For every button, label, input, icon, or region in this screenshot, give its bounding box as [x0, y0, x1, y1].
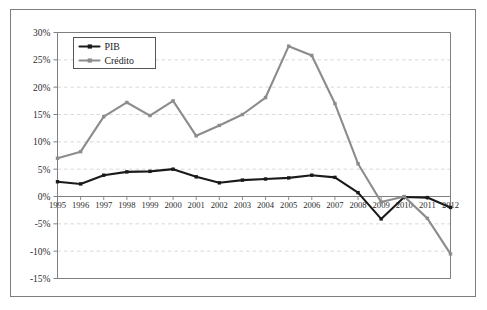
x-tick-label: 1997 — [95, 200, 113, 210]
y-tick-label: -10% — [30, 247, 51, 257]
data-point-marker — [310, 173, 313, 176]
data-point-marker — [218, 124, 221, 127]
line-chart: 30%25%20%15%10%5%0%-5%-10%-15%1995199619… — [0, 0, 487, 310]
legend-item-label: Crédito — [105, 55, 134, 66]
y-tick-label: 30% — [33, 28, 51, 38]
data-point-marker — [56, 157, 59, 160]
data-point-marker — [449, 206, 452, 209]
y-tick-label: 10% — [33, 137, 51, 147]
data-point-marker — [264, 177, 267, 180]
data-point-marker — [333, 102, 336, 105]
x-tick-label: 2011 — [419, 200, 436, 210]
x-tick-label: 1998 — [118, 200, 135, 210]
data-point-marker — [426, 196, 429, 199]
data-point-marker — [171, 167, 174, 170]
gridlines — [58, 33, 451, 279]
data-point-marker — [102, 173, 105, 176]
x-tick-label: 2007 — [326, 200, 344, 210]
data-point-marker — [79, 182, 82, 185]
data-point-marker — [356, 162, 359, 165]
legend-swatch-marker — [88, 44, 92, 48]
legend: PIBCrédito — [74, 38, 156, 69]
data-point-marker — [264, 96, 267, 99]
x-tick-label: 2005 — [280, 200, 297, 210]
x-tick-label: 2004 — [257, 200, 275, 210]
data-point-marker — [241, 113, 244, 116]
data-point-marker — [125, 170, 128, 173]
data-point-marker — [241, 178, 244, 181]
data-point-marker — [333, 176, 336, 179]
legend-item-label: PIB — [105, 41, 121, 52]
series-line — [58, 46, 451, 254]
y-tick-label: -5% — [35, 219, 51, 229]
series-line — [58, 169, 451, 219]
y-axis-ticks: 30%25%20%15%10%5%0%-5%-10%-15% — [30, 28, 58, 284]
x-tick-label: 2003 — [234, 200, 251, 210]
data-point-marker — [171, 99, 174, 102]
x-tick-label: 1999 — [141, 200, 158, 210]
y-tick-label: 15% — [33, 110, 51, 120]
data-point-marker — [310, 54, 313, 57]
data-point-marker — [148, 114, 151, 117]
data-point-marker — [403, 195, 406, 198]
y-tick-label: 20% — [33, 83, 51, 93]
data-point-marker — [218, 181, 221, 184]
x-tick-label: 2002 — [211, 200, 228, 210]
y-tick-label: -15% — [30, 274, 51, 284]
y-tick-label: 5% — [38, 165, 51, 175]
data-point-marker — [79, 150, 82, 153]
x-tick-label: 2008 — [349, 200, 366, 210]
axes — [58, 33, 451, 279]
legend-swatch-marker — [88, 58, 92, 62]
x-tick-label: 2000 — [164, 200, 181, 210]
data-point-marker — [379, 200, 382, 203]
data-point-marker — [195, 175, 198, 178]
data-point-marker — [426, 217, 429, 220]
data-point-marker — [356, 191, 359, 194]
x-tick-label: 1996 — [72, 200, 90, 210]
data-point-marker — [287, 176, 290, 179]
data-point-marker — [148, 170, 151, 173]
data-point-marker — [449, 252, 452, 255]
data-point-marker — [56, 180, 59, 183]
y-tick-label: 25% — [33, 55, 51, 65]
series-pib — [56, 167, 452, 220]
x-tick-label: 1995 — [49, 200, 66, 210]
data-point-marker — [379, 217, 382, 220]
data-point-marker — [125, 101, 128, 104]
x-tick-label: 2006 — [303, 200, 321, 210]
chart-container: 30%25%20%15%10%5%0%-5%-10%-15%1995199619… — [0, 0, 487, 310]
data-point-marker — [102, 115, 105, 118]
data-point-marker — [287, 44, 290, 47]
x-tick-label: 2001 — [188, 200, 205, 210]
data-point-marker — [195, 134, 198, 137]
